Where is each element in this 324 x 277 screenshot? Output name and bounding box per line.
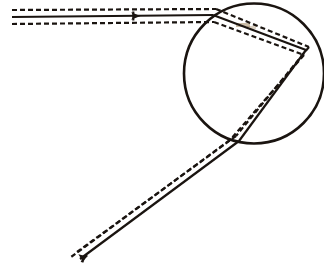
arrow-tail-icon xyxy=(132,12,134,21)
figure-background xyxy=(0,0,324,277)
diagram-canvas xyxy=(0,0,324,277)
ray-diagram-figure: Ray path through circular lens Optical r… xyxy=(0,0,324,277)
